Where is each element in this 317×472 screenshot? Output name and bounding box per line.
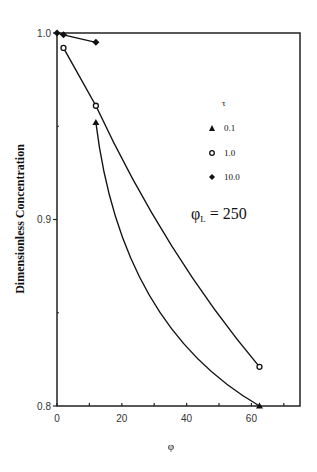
open-circle-marker-icon — [93, 103, 98, 108]
open-circle-marker-icon — [61, 45, 66, 50]
diamond-marker-icon — [92, 39, 99, 46]
open-circle-marker-icon — [257, 364, 262, 369]
x-tick-label: 40 — [181, 413, 193, 424]
y-tick-label: 0.8 — [37, 401, 51, 412]
y-tick-label: 1.0 — [37, 28, 51, 39]
plot-frame — [57, 33, 300, 406]
open-circle-marker-icon — [210, 151, 215, 156]
y-axis-label: Dimensionless Concentration — [13, 144, 27, 294]
triangle-marker-icon — [92, 119, 99, 125]
legend-label-0-1: 0.1 — [224, 123, 235, 133]
diamond-marker-icon — [209, 174, 215, 180]
legend-label-10-0: 10.0 — [224, 172, 240, 182]
legend-label-1-0: 1.0 — [224, 148, 236, 158]
series-line — [96, 123, 260, 406]
chart: 0.80.91.0 0204060 Dimensionless Concentr… — [0, 0, 317, 472]
x-tick-label: 0 — [54, 413, 60, 424]
y-tick-label: 0.9 — [37, 214, 51, 225]
legend-title: τ — [222, 98, 226, 108]
legend: τ 0.1 1.0 10.0 — [209, 98, 240, 182]
x-tick-label: 60 — [246, 413, 258, 424]
x-tick-label: 20 — [116, 413, 128, 424]
diamond-marker-icon — [54, 30, 61, 37]
phi-l-annotation: φL = 250 — [191, 205, 247, 224]
y-axis-ticks: 0.80.91.0 — [37, 28, 59, 412]
x-axis-label: φ — [168, 440, 174, 452]
triangle-marker-icon — [209, 125, 215, 131]
